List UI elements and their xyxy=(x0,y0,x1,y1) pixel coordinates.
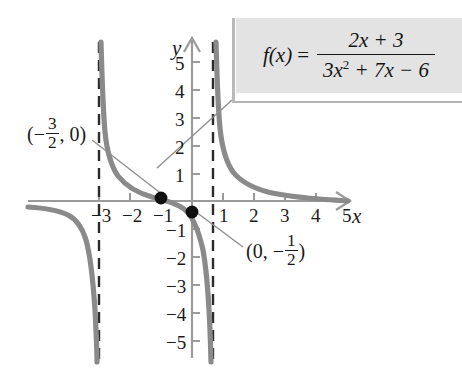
x-intercept-fraction: 3 2 xyxy=(46,115,59,151)
x-intercept-label: (− 3 2 , 0) xyxy=(27,116,86,152)
x-tick-label-1: 1 xyxy=(219,206,229,225)
y-intercept-label: (0, − 1 2 ) xyxy=(246,233,305,269)
x-axis-label: x xyxy=(352,206,361,227)
formula-expression: f(x) = 2x + 3 3x2 + 7x − 6 xyxy=(263,28,435,83)
formula-fraction: 2x + 3 3x2 + 7x − 6 xyxy=(317,28,435,83)
y-tick-label-1: 1 xyxy=(175,166,185,185)
point-y-intercept xyxy=(186,206,199,219)
x-intercept-numerator: 3 xyxy=(46,115,59,133)
y-intercept-numerator: 1 xyxy=(285,232,298,250)
x-tick-label-4: 4 xyxy=(311,206,321,225)
x-tick-label-3: 3 xyxy=(280,206,290,225)
x-intercept-denominator: 2 xyxy=(46,133,59,152)
y-intercept-label-open: (0, − xyxy=(246,241,284,261)
formula-denominator-b: + 7x − 6 xyxy=(349,58,429,82)
x-tick-label--2: −2 xyxy=(122,206,142,225)
y-intercept-fraction: 1 2 xyxy=(285,232,298,268)
y-tick-label--4: −4 xyxy=(166,305,186,324)
formula-box-edge xyxy=(232,18,235,103)
y-tick-label--3: −3 xyxy=(166,277,186,296)
y-intercept-label-close: ) xyxy=(299,241,306,261)
y-tick-label--1: −1 xyxy=(166,221,186,240)
point-x-intercept xyxy=(155,192,168,205)
x-tick-label-5: 5 xyxy=(342,206,352,225)
y-intercept-denominator: 2 xyxy=(285,250,298,269)
curve-branch-left xyxy=(28,207,97,362)
y-tick-label-3: 3 xyxy=(175,110,185,129)
x-tick-label-2: 2 xyxy=(249,206,259,225)
formula-lhs: f(x) xyxy=(263,43,292,68)
y-axis xyxy=(184,38,200,358)
y-tick-label-4: 4 xyxy=(175,82,185,101)
formula-numerator: 2x + 3 xyxy=(342,28,409,54)
x-tick-label--3: −3 xyxy=(91,206,111,225)
y-tick-label--5: −5 xyxy=(166,333,186,352)
y-tick-label-5: 5 xyxy=(175,54,185,73)
rational-function-figure: f(x) = 2x + 3 3x2 + 7x − 6 y x −3 −2 −1 … xyxy=(0,0,462,379)
y-tick-label--2: −2 xyxy=(166,249,186,268)
y-tick-label-2: 2 xyxy=(175,138,185,157)
formula-denominator: 3x2 + 7x − 6 xyxy=(317,54,435,83)
formula-callout: f(x) = 2x + 3 3x2 + 7x − 6 xyxy=(236,18,462,93)
formula-equals: = xyxy=(297,43,309,68)
x-intercept-label-close: , 0) xyxy=(60,124,87,144)
formula-denominator-a: 3x xyxy=(323,58,343,82)
x-intercept-label-open: (− xyxy=(27,124,45,144)
